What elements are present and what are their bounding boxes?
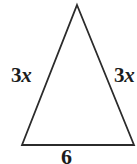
right-leg-coefficient: 3 bbox=[114, 63, 124, 87]
base-label: 6 bbox=[61, 146, 72, 164]
right-leg-label: 3x bbox=[114, 65, 135, 86]
left-leg-variable: x bbox=[21, 63, 31, 87]
triangle-figure: 3x 3x 6 bbox=[0, 0, 137, 164]
left-leg-coefficient: 3 bbox=[11, 63, 21, 87]
left-leg-label: 3x bbox=[11, 65, 32, 86]
right-leg-variable: x bbox=[124, 63, 134, 87]
